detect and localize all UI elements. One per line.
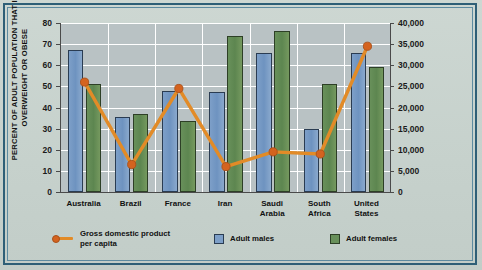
chart-figure: PERCENT OF ADULT POPULATION THAT IS OVER… (0, 0, 482, 270)
legend-label-females: Adult females (346, 234, 397, 244)
gridline-h (61, 192, 391, 193)
gdp-data-point (316, 150, 324, 158)
legend-label-males: Adult males (230, 234, 274, 244)
legend-label-gdp: Gross domestic productper capita (80, 229, 170, 248)
y-tick-label-right: 10,000 (398, 146, 424, 154)
y-tick-label-right: 20,000 (398, 104, 424, 112)
legend-item-gdp: Gross domestic productper capita (52, 229, 170, 248)
plot-area (60, 23, 391, 193)
y-tick-label-left: 0 (20, 188, 52, 196)
legend-item-males: Adult males (214, 234, 274, 244)
gdp-data-point (80, 78, 88, 86)
y-tick-label-right: 5,000 (398, 167, 419, 175)
gdp-data-point (222, 163, 230, 171)
y-tick-label-right: 25,000 (398, 82, 424, 90)
y-tick-label-right: 0 (398, 188, 403, 196)
y-tick-label-left: 20 (20, 146, 52, 154)
y-tick-label-left: 30 (20, 125, 52, 133)
y-tick-label-left: 10 (20, 167, 52, 175)
gdp-data-point (269, 148, 277, 156)
legend-item-females: Adult females (330, 234, 397, 244)
gdp-line-path (85, 46, 368, 166)
y-tick-label-right: 15,000 (398, 125, 424, 133)
y-tick-label-left: 50 (20, 82, 52, 90)
blue-square-icon (214, 234, 224, 244)
line-marker-icon (52, 234, 74, 243)
y-tick-label-right: 35,000 (398, 40, 424, 48)
y-tick-label-left: 70 (20, 40, 52, 48)
y-tick-label-left: 40 (20, 104, 52, 112)
x-tick-label: UnitedStates (334, 199, 398, 218)
gdp-data-point (128, 160, 136, 168)
gdp-data-point (175, 84, 183, 92)
y-tick-label-right: 40,000 (398, 19, 424, 27)
y-tick-label-left: 80 (20, 19, 52, 27)
gdp-data-point (363, 42, 371, 50)
y-tick-label-left: 60 (20, 61, 52, 69)
y-tick-label-right: 30,000 (398, 61, 424, 69)
green-square-icon (330, 234, 340, 244)
right-axis-line (390, 23, 391, 192)
chart-legend: Gross domestic productper capita Adult m… (44, 228, 444, 254)
gdp-line-series (61, 23, 391, 192)
